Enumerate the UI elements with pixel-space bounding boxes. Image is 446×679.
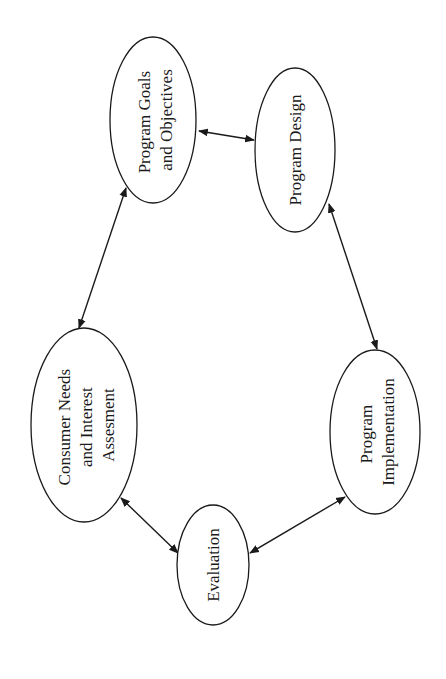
label-line: Consumer Needs [55,369,74,486]
double-arrow-icon [121,498,178,553]
cycle-diagram: Program Goals and Objectives Program Des… [0,0,446,679]
node-label: Evaluation [204,528,223,602]
label-line: and Objectives [157,69,176,171]
edge-goals-design [199,131,254,140]
label-line: Implementation [379,378,398,486]
label-line: Program [357,405,376,464]
edge-evaluation-consumer [121,498,178,553]
double-arrow-icon [250,497,345,553]
node-label: Program Design [286,94,305,205]
label-line: and Interest [77,387,96,467]
edge-consumer-goals [79,188,126,328]
label-line: Evaluation [204,528,223,602]
label-line: Program Design [286,94,305,205]
double-arrow-icon [199,131,254,140]
node-program-goals: Program Goals and Objectives [110,37,196,203]
node-consumer-needs: Consumer Needs and Interest Assesment [31,328,137,522]
label-line: Assesment [99,388,118,462]
edge-design-implementation [329,204,377,349]
node-evaluation: Evaluation [177,505,249,625]
edge-implementation-evaluation [250,497,345,553]
label-line: Program Goals [135,71,154,173]
node-program-implementation: Program Implementation [330,350,420,514]
double-arrow-icon [329,204,377,349]
double-arrow-icon [79,188,126,328]
node-program-design: Program Design [255,68,335,232]
